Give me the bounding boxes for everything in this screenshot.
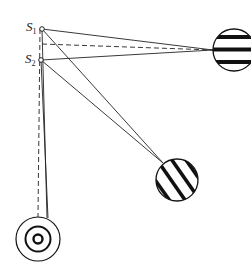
screen-horizontal-fringes — [210, 29, 251, 71]
source-s1: S1 — [26, 19, 44, 36]
source-s2: S2 — [25, 51, 43, 68]
rays-to-bottom-screen — [38, 29, 48, 218]
interference-diagram: S1 S2 — [0, 0, 251, 263]
source-s2-label: S2 — [25, 51, 36, 68]
rays-to-diagonal-screen — [41, 29, 163, 163]
screen-concentric-rings — [16, 217, 60, 261]
rays-to-right-screen — [41, 29, 213, 60]
source-s1-label: S1 — [26, 19, 37, 36]
screen-oblique-fringes — [148, 150, 212, 215]
